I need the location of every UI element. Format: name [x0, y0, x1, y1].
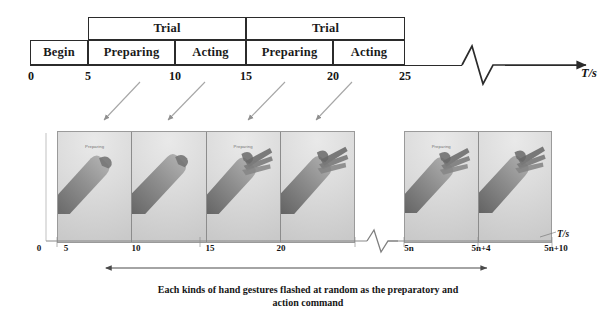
- cue-arrow-2: [168, 82, 205, 120]
- panel-tick-5: 5: [60, 243, 72, 253]
- axis-tick-5: 5: [81, 69, 95, 84]
- hand-open-icon: [405, 132, 477, 213]
- trial-box-2: Trial: [246, 17, 405, 40]
- axis-tick-15: 15: [237, 69, 255, 84]
- panel-tick-5n: 5n: [400, 243, 418, 253]
- trial-box-1-label: Trial: [153, 21, 180, 36]
- phase-box-acting-2-label: Acting: [351, 45, 388, 60]
- gesture-frame-5: Preparing: [405, 132, 479, 242]
- axis-tick-0: 0: [24, 69, 38, 84]
- hand-open-icon: [281, 132, 354, 214]
- panel-tick-0: 0: [33, 243, 45, 253]
- trial-box-1: Trial: [88, 17, 246, 40]
- cue-arrows: [104, 82, 352, 120]
- phase-box-preparing-2: Preparing: [246, 40, 333, 65]
- axis-tick-20: 20: [324, 69, 342, 84]
- gesture-frame-1: Preparing: [58, 132, 132, 242]
- panel-tick-5n10: 5n+10: [539, 243, 573, 253]
- phase-box-preparing-2-label: Preparing: [262, 45, 318, 60]
- panel-tick-10: 10: [128, 243, 144, 253]
- panel-tick-15: 15: [202, 243, 218, 253]
- caption-line-1: Each kinds of hand gestures flashed at r…: [90, 283, 526, 296]
- phase-box-begin: Begin: [30, 40, 88, 65]
- cue-arrow-1: [104, 82, 140, 120]
- gesture-frame-6: Preparing: [479, 132, 552, 242]
- time-axis-unit: T/s: [581, 66, 597, 81]
- hand-fist-icon: [132, 132, 205, 214]
- hand-open-icon: [207, 132, 280, 214]
- cue-arrow-3: [248, 82, 285, 120]
- figure-caption: Each kinds of hand gestures flashed at r…: [90, 283, 526, 309]
- axis-break-zigzag-bottom: [367, 230, 398, 252]
- caption-line-2: action command: [90, 296, 526, 309]
- gesture-frame-4: Preparing: [281, 132, 354, 242]
- figure-root: Trial Trial Begin Preparing Acting Prepa…: [0, 0, 616, 321]
- time-axis-left-segment: [30, 65, 462, 66]
- phase-box-begin-label: Begin: [43, 45, 75, 60]
- axis-tick-10: 10: [166, 69, 184, 84]
- phase-box-acting-1: Acting: [175, 40, 246, 65]
- phase-box-acting-2: Acting: [333, 40, 405, 65]
- trial-box-2-label: Trial: [312, 21, 339, 36]
- phase-box-acting-1-label: Acting: [192, 45, 229, 60]
- axis-tick-25: 25: [396, 69, 414, 84]
- hand-fist-icon: [58, 132, 131, 214]
- time-axis-right-segment: [505, 65, 585, 66]
- cue-arrow-4: [316, 82, 352, 120]
- panel-tick-5n4: 5n+4: [467, 243, 495, 253]
- panel-tick-20: 20: [273, 243, 289, 253]
- phase-box-preparing-1: Preparing: [88, 40, 175, 65]
- gesture-panel-left: Preparing Preparing: [57, 131, 355, 243]
- gesture-panel-right: Preparing Preparing: [404, 131, 552, 243]
- phase-box-preparing-1-label: Preparing: [104, 45, 160, 60]
- gesture-frame-3: Preparing: [207, 132, 281, 242]
- panel-axis-unit: T/s: [557, 229, 569, 239]
- axis-break-zigzag-top: [462, 46, 505, 84]
- hand-open-icon: [479, 132, 551, 213]
- gesture-frame-2: Preparing: [132, 132, 206, 242]
